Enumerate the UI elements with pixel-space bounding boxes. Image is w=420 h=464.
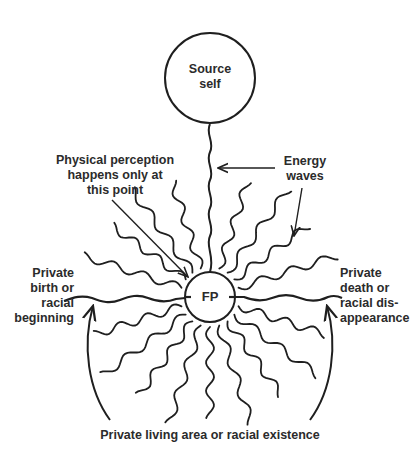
- perception-label: Physical perception happens only at this…: [40, 153, 190, 198]
- energy-wave-ray: [239, 256, 338, 289]
- birth-label: Private birth or racial beginning: [2, 266, 74, 326]
- energy-wave-ray: [219, 183, 251, 268]
- focal-point-label: FP: [190, 289, 230, 304]
- energy-wave-ray: [136, 321, 193, 392]
- energy-wave-ray: [227, 321, 278, 397]
- energy-wave-ray: [228, 192, 292, 273]
- energy-wave-ray: [234, 315, 315, 379]
- lifeline-right-wave: [235, 295, 342, 301]
- energy-wave-ray: [100, 315, 186, 373]
- energy-wave-ray: [218, 326, 251, 425]
- energy-wave-ray: [135, 187, 193, 273]
- source-self-label: Source self: [170, 62, 250, 92]
- energy-wave-ray: [239, 306, 324, 338]
- energy-wave-ray: [206, 327, 214, 418]
- source-connection-wave: [209, 124, 212, 272]
- living-area-arc-left: [88, 306, 110, 420]
- living-area-label: Private living area or racial existence: [60, 428, 360, 443]
- energy-wave-ray: [114, 223, 185, 280]
- death-label: Private death or racial dis- appearance: [340, 266, 420, 326]
- lifeline-left-wave: [64, 296, 185, 302]
- energy-waves-label: Energy waves: [270, 154, 340, 184]
- energy-wave-ray: [234, 229, 310, 280]
- energy-wave-ray: [94, 305, 182, 335]
- living-area-arc-right: [310, 306, 332, 420]
